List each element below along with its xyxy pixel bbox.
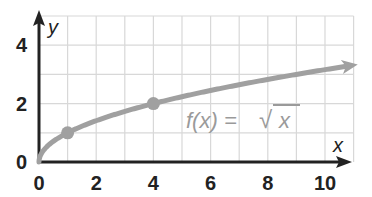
x-tick-label: 10 (314, 172, 336, 194)
function-label: f(x) = √ x (186, 105, 300, 133)
x-tick-label: 4 (148, 172, 160, 194)
sqrt-symbol-icon: √ (259, 106, 273, 133)
data-point (61, 126, 74, 139)
y-tick-label: 0 (16, 151, 27, 173)
sqrt-function-chart: 0246810024 y x f(x) = √ x (0, 0, 372, 197)
x-axis-label: x (332, 134, 344, 156)
data-point (147, 97, 160, 110)
x-tick-label: 0 (33, 172, 44, 194)
y-tick-label: 2 (16, 93, 27, 115)
x-tick-label: 2 (91, 172, 102, 194)
grid (39, 16, 354, 162)
axes (33, 10, 352, 168)
x-tick-label: 6 (205, 172, 216, 194)
x-tick-label: 8 (262, 172, 273, 194)
y-tick-label: 4 (16, 34, 28, 56)
y-axis-label: y (46, 16, 59, 38)
function-label-prefix: f(x) = (186, 108, 237, 133)
function-label-arg: x (278, 108, 291, 133)
